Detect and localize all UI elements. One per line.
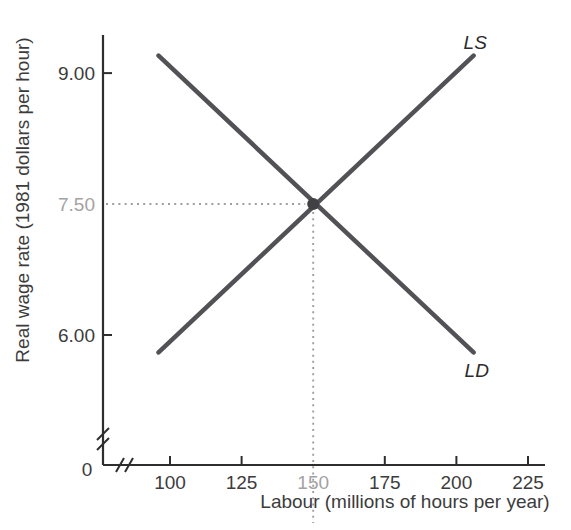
curve-label-LD: LD: [465, 360, 490, 381]
x-tick-label: 200: [441, 472, 473, 493]
x-axis-title: Labour (millions of hours per year): [260, 491, 549, 512]
labour-market-chart: 01001251501752002256.007.509.00LDLSLabou…: [0, 0, 571, 530]
labour-market-figure: 01001251501752002256.007.509.00LDLSLabou…: [0, 0, 571, 530]
y-axis-title: Real wage rate (1981 dollars per hour): [12, 37, 33, 362]
y-tick-label: 7.50: [58, 194, 95, 215]
x-tick-label: 150: [297, 472, 329, 493]
x-tick-label: 125: [226, 472, 258, 493]
y-tick-label: 9.00: [58, 63, 95, 84]
equilibrium-point: [307, 198, 319, 210]
y-tick-label: 6.00: [58, 325, 95, 346]
origin-label: 0: [82, 459, 93, 480]
x-tick-label: 225: [512, 472, 544, 493]
x-tick-label: 100: [154, 472, 186, 493]
curve-label-LS: LS: [464, 32, 488, 53]
x-tick-label: 175: [369, 472, 401, 493]
